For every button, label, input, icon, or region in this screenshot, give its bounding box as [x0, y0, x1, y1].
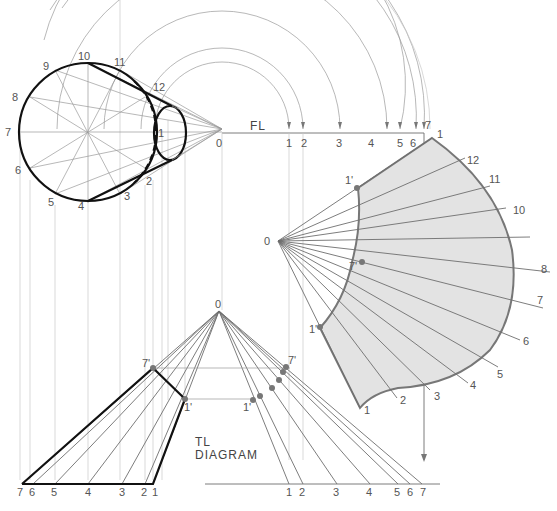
svg-text:3: 3 [119, 486, 125, 498]
svg-text:6: 6 [29, 486, 35, 498]
svg-text:10: 10 [78, 50, 90, 62]
svg-text:0: 0 [264, 235, 270, 247]
svg-text:3: 3 [333, 486, 339, 498]
svg-text:4: 4 [368, 137, 374, 149]
svg-text:0: 0 [215, 298, 221, 310]
svg-text:5: 5 [394, 486, 400, 498]
svg-text:4: 4 [78, 200, 84, 212]
svg-text:5: 5 [51, 486, 57, 498]
svg-text:4: 4 [366, 486, 372, 498]
svg-text:1': 1' [184, 401, 192, 413]
svg-text:7: 7 [537, 294, 543, 306]
svg-text:1: 1 [152, 486, 158, 498]
svg-text:1: 1 [364, 404, 370, 416]
svg-text:2: 2 [299, 486, 305, 498]
top-view-labels: 10 11 12 9 8 7 6 5 4 3 2 1 0 FL [5, 50, 266, 212]
svg-text:6: 6 [410, 137, 416, 149]
svg-text:2: 2 [146, 175, 152, 187]
svg-text:3: 3 [124, 190, 130, 202]
svg-text:2: 2 [141, 486, 147, 498]
top-view [19, 62, 222, 203]
svg-text:7: 7 [425, 119, 431, 131]
svg-text:6: 6 [523, 335, 529, 347]
svg-text:0: 0 [216, 137, 222, 149]
cone-development-drawing: 10 11 12 9 8 7 6 5 4 3 2 1 0 FL 1 2 3 4 … [0, 0, 557, 511]
svg-text:1: 1 [437, 128, 443, 140]
svg-text:TL: TL [195, 435, 211, 449]
svg-text:7': 7' [288, 354, 296, 366]
svg-text:7: 7 [420, 486, 426, 498]
svg-text:3: 3 [336, 137, 342, 149]
svg-text:1: 1 [158, 127, 164, 139]
svg-text:12: 12 [467, 154, 479, 166]
svg-text:1: 1 [286, 486, 292, 498]
svg-text:12: 12 [153, 81, 165, 93]
svg-text:9: 9 [43, 60, 49, 72]
svg-text:11: 11 [489, 173, 500, 185]
svg-text:3: 3 [434, 390, 440, 402]
svg-text:8: 8 [541, 263, 547, 275]
svg-text:4: 4 [470, 379, 476, 391]
svg-text:7: 7 [5, 126, 11, 138]
svg-text:6: 6 [15, 164, 21, 176]
svg-text:5: 5 [397, 137, 403, 149]
svg-text:DIAGRAM: DIAGRAM [195, 448, 258, 462]
svg-text:2: 2 [400, 394, 406, 406]
development [278, 138, 550, 408]
svg-text:7': 7' [349, 260, 357, 272]
svg-text:5: 5 [497, 368, 503, 380]
fold-line-labels: 1 2 3 4 5 6 7 [286, 119, 431, 149]
svg-text:5: 5 [48, 196, 54, 208]
svg-text:6: 6 [407, 486, 413, 498]
svg-text:7': 7' [142, 357, 150, 369]
svg-text:1': 1' [345, 174, 353, 186]
svg-text:1': 1' [243, 401, 251, 413]
svg-text:10: 10 [513, 204, 525, 216]
svg-text:1: 1 [286, 137, 292, 149]
svg-text:11: 11 [114, 56, 125, 68]
svg-text:1': 1' [309, 323, 317, 335]
arrowheads [287, 122, 426, 129]
svg-text:2: 2 [301, 137, 307, 149]
svg-text:FL: FL [250, 119, 266, 133]
svg-text:8: 8 [12, 91, 18, 103]
tl-outline [22, 368, 185, 484]
svg-text:4: 4 [85, 486, 91, 498]
svg-text:7: 7 [17, 486, 23, 498]
